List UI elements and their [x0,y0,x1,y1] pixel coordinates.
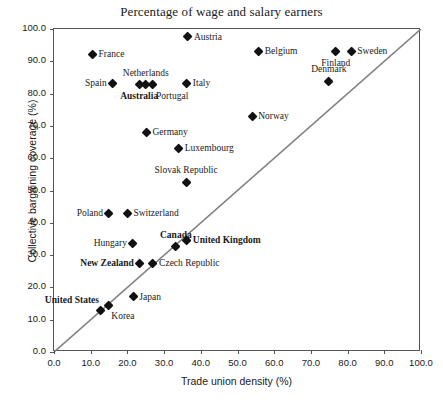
plot-area: 0.010.020.030.040.050.060.070.080.090.01… [53,28,420,351]
x-tick-label: 90.0 [375,357,394,368]
diamond-marker-icon [171,242,181,252]
diamond-marker-icon [247,111,257,121]
data-point-label: Australia [120,92,158,102]
y-tick-label: 70.0 [28,119,47,130]
diamond-marker-icon [183,32,193,42]
data-point-label: New Zealand [80,259,134,269]
x-tick-mark [421,350,422,354]
diamond-marker-icon [346,47,356,57]
diamond-marker-icon [254,47,264,57]
data-point-label: Slovak Republic [155,166,218,176]
diamond-marker-icon [182,79,192,89]
diamond-marker-icon [122,208,132,218]
x-tick-label: 0.0 [47,357,60,368]
x-tick-mark [164,350,165,354]
diamond-marker-icon [135,258,145,268]
y-tick-mark [50,320,54,321]
y-tick-label: 100.0 [22,22,46,33]
x-tick-mark [238,350,239,354]
data-point-label: Spain [85,79,107,89]
y-tick-mark [50,61,54,62]
x-tick-label: 80.0 [338,357,357,368]
y-tick-label: 50.0 [28,184,47,195]
data-point-label: France [99,50,125,60]
x-tick-mark [54,350,55,354]
chart-page: Percentage of wage and salary earners Co… [0,0,443,406]
data-point-label: Hungary [94,239,127,249]
diamond-marker-icon [148,258,158,268]
y-tick-mark [50,158,54,159]
data-point-label: Denmark [311,65,346,75]
diamond-marker-icon [128,292,138,302]
data-point-label: Poland [77,209,103,219]
x-tick-mark [348,350,349,354]
data-point-label: United Kingdom [193,236,261,246]
diamond-marker-icon [141,127,151,137]
diamond-marker-icon [104,208,114,218]
diamond-marker-icon [108,79,118,89]
data-point-label: Korea [111,312,134,322]
data-point-label: Italy [193,79,210,89]
x-tick-mark [274,350,275,354]
y-tick-label: 60.0 [28,151,47,162]
diamond-marker-icon [174,143,184,153]
data-point-label: Switzerland [133,209,178,219]
x-axis-title: Trade union density (%) [53,375,420,387]
diamond-marker-icon [331,47,341,57]
x-tick-mark [201,350,202,354]
data-point-label: Portugal [156,92,188,102]
y-tick-label: 20.0 [28,280,47,291]
y-tick-mark [50,287,54,288]
y-tick-mark [50,223,54,224]
data-point-label: Sweden [357,47,387,57]
y-tick-mark [50,94,54,95]
diamond-marker-icon [128,239,138,249]
y-tick-label: 40.0 [28,216,47,227]
data-point-label: Netherlands [123,69,169,79]
y-tick-label: 80.0 [28,87,47,98]
x-tick-mark [384,350,385,354]
x-tick-label: 60.0 [265,357,284,368]
diamond-marker-icon [181,177,191,187]
y-tick-label: 0.0 [33,345,46,356]
y-tick-mark [50,126,54,127]
y-tick-mark [50,255,54,256]
y-tick-label: 10.0 [28,313,47,324]
diamond-marker-icon [324,76,334,86]
data-point-label: Belgium [265,47,298,57]
data-point-label: Austria [194,33,222,43]
x-tick-label: 50.0 [228,357,247,368]
y-tick-label: 90.0 [28,54,47,65]
x-tick-mark [311,350,312,354]
data-point-label: Czech Republic [159,259,219,269]
x-tick-label: 20.0 [118,357,137,368]
data-point-label: United States [45,296,99,306]
x-tick-label: 100.0 [409,357,433,368]
data-point-label: Germany [152,128,187,138]
y-tick-mark [50,29,54,30]
data-point-label: Japan [139,293,161,303]
x-tick-label: 40.0 [192,357,211,368]
y-tick-mark [50,191,54,192]
diamond-marker-icon [87,50,97,60]
page-title: Percentage of wage and salary earners [0,4,443,20]
diamond-marker-icon [148,80,158,90]
data-point-label: Luxembourg [185,144,234,154]
x-tick-mark [91,350,92,354]
x-tick-label: 70.0 [302,357,321,368]
x-tick-mark [127,350,128,354]
x-tick-label: 10.0 [81,357,100,368]
data-point-label: Norway [258,112,289,122]
y-tick-label: 30.0 [28,248,47,259]
x-tick-label: 30.0 [155,357,174,368]
